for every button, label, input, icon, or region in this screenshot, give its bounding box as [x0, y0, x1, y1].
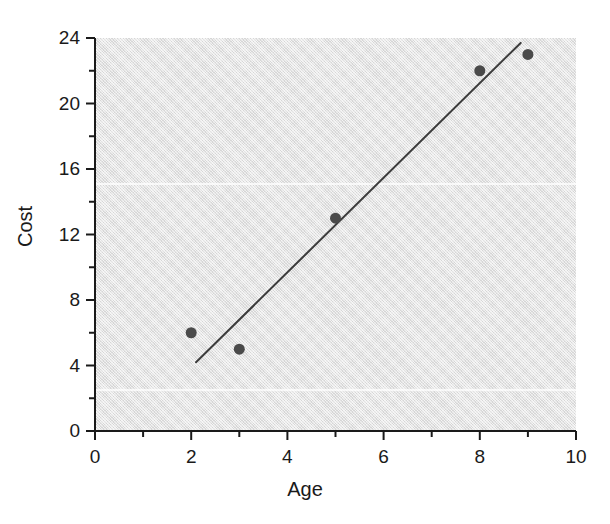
regression-line [196, 43, 521, 362]
x-axis-tick-label: 8 [475, 446, 486, 468]
y-axis-tick-label: 0 [40, 420, 80, 442]
plot-area [95, 38, 576, 431]
data-point [474, 65, 485, 76]
data-point [522, 49, 533, 60]
y-axis-tick-label: 20 [40, 93, 80, 115]
y-axis-title: Cost [14, 206, 37, 247]
x-axis-title: Age [0, 478, 610, 501]
data-point [186, 327, 197, 338]
data-point [330, 213, 341, 224]
y-axis-tick-label: 24 [40, 27, 80, 49]
plot-series-layer [95, 38, 576, 431]
x-axis-tick-label: 0 [90, 446, 101, 468]
y-axis-tick-label: 12 [40, 224, 80, 246]
x-axis-ticks [95, 431, 576, 440]
x-axis-tick-label: 6 [378, 446, 389, 468]
x-axis-tick-label: 4 [282, 446, 293, 468]
fitted-line [196, 43, 521, 362]
data-point [234, 344, 245, 355]
y-axis-tick-label: 4 [40, 355, 80, 377]
y-axis-ticks [86, 38, 95, 431]
x-axis-tick-label: 10 [565, 446, 586, 468]
y-axis-tick-label: 8 [40, 289, 80, 311]
x-axis-tick-label: 2 [186, 446, 197, 468]
scatter-plot-figure: 04812162024 0246810 Age Cost [0, 0, 610, 524]
y-axis-tick-label: 16 [40, 158, 80, 180]
